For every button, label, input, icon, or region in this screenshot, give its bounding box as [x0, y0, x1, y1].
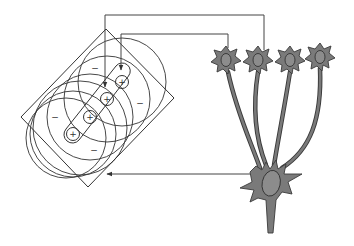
input-neuron-2 — [243, 46, 273, 74]
plus-sign: + — [86, 112, 94, 122]
minus-sign: − — [90, 145, 98, 155]
receptive-field-diagram: Simple cell receptive field formed by co… — [0, 0, 354, 246]
input-neuron-1 — [211, 46, 241, 74]
diagram-canvas: + + + + − − − − — [0, 0, 354, 246]
plus-sign: + — [118, 77, 126, 87]
plus-sign: + — [69, 129, 77, 139]
surround-circles — [26, 38, 166, 178]
plus-sign: + — [103, 94, 111, 104]
minus-sign: − — [91, 63, 99, 73]
input-neuron-3 — [275, 46, 305, 74]
input-neurons — [211, 43, 335, 74]
surround-circle — [26, 98, 106, 178]
receptive-field: + + + + − − − − — [21, 29, 174, 187]
inner-connection-line — [121, 34, 228, 70]
output-neuron — [240, 160, 302, 233]
input-neuron-4 — [305, 43, 335, 71]
minus-sign: − — [136, 98, 144, 108]
minus-sign: − — [51, 112, 59, 122]
